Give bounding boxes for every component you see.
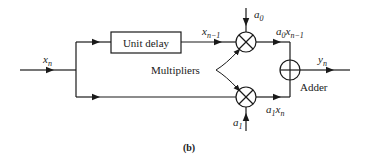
delayed-signal-label: xn−1 [201, 25, 220, 40]
unit-delay-label: Unit delay [123, 37, 170, 49]
adder-label: Adder [300, 81, 328, 93]
multiplier-bottom-icon [236, 87, 256, 107]
figure-caption: (b) [183, 142, 195, 154]
block-diagram: xn Unit delay xn−1 a0 a0xn−1 Multipliers… [0, 0, 368, 158]
coef-a1-label: a1 [233, 116, 243, 131]
input-label: xn [42, 53, 52, 68]
adder-icon [280, 60, 300, 80]
bottom-product-line [256, 80, 290, 97]
coef-a0-label: a0 [254, 8, 264, 23]
multipliers-callout [216, 51, 238, 89]
bottom-product-label: a1xn [266, 103, 284, 118]
multiplier-top-icon [236, 32, 256, 52]
output-label: yn [317, 53, 327, 68]
top-product-line [256, 42, 290, 60]
top-product-label: a0xn−1 [276, 25, 304, 40]
input-line [20, 42, 76, 97]
multipliers-label: Multipliers [151, 64, 200, 76]
